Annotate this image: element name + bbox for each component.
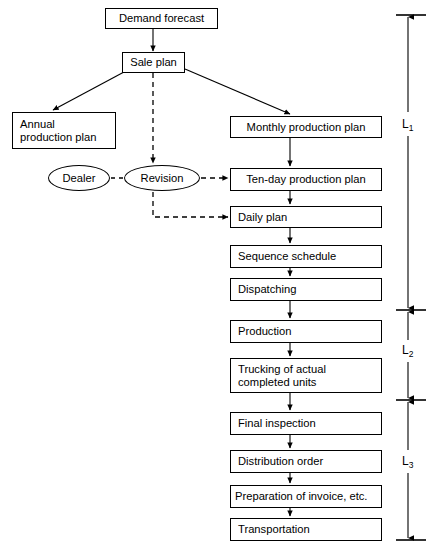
node-annual-production-plan[interactable]: Annual production plan [12,112,116,149]
node-production[interactable]: Production [230,320,382,343]
flowchart-diagram: Demand forecast Sale plan Annual product… [0,0,440,549]
node-preparation-of-invoice-label: Preparation of invoice, etc. [235,490,367,503]
node-daily-plan[interactable]: Daily plan [230,206,382,228]
dimension-label-l3: L3 [400,453,415,471]
node-trucking-of-actual-completed-units[interactable]: Trucking of actual completed units [230,358,382,393]
node-monthly-production-plan-label: Monthly production plan [247,121,366,134]
node-demand-forecast[interactable]: Demand forecast [105,8,218,29]
node-distribution-order[interactable]: Distribution order [230,450,382,473]
node-dispatching-label: Dispatching [238,283,296,296]
node-demand-forecast-label: Demand forecast [119,12,204,25]
node-monthly-production-plan[interactable]: Monthly production plan [230,116,382,138]
node-revision-label: Revision [141,172,184,185]
node-dispatching[interactable]: Dispatching [230,278,382,301]
node-annual-production-plan-label: Annual production plan [20,118,97,144]
node-sequence-schedule-label: Sequence schedule [238,250,336,263]
node-transportation[interactable]: Transportation [230,518,382,541]
node-revision[interactable]: Revision [124,165,200,191]
dimension-label-l1: L1 [400,116,415,134]
dimension-label-l3-subscript: 3 [409,460,414,470]
node-sale-plan-label: Sale plan [130,56,177,69]
node-production-label: Production [238,325,292,338]
node-daily-plan-label: Daily plan [238,211,287,224]
dimension-label-l3-letter: L [402,454,409,468]
node-ten-day-production-plan-label: Ten-day production plan [246,173,365,186]
dimension-label-l2-subscript: 2 [409,349,414,359]
dimension-label-l2: L2 [400,342,415,360]
node-ten-day-production-plan[interactable]: Ten-day production plan [230,168,382,191]
dimension-label-l2-letter: L [402,343,409,357]
node-preparation-of-invoice[interactable]: Preparation of invoice, etc. [230,485,382,508]
node-dealer[interactable]: Dealer [48,165,110,191]
node-trucking-of-actual-completed-units-label: Trucking of actual completed units [238,363,326,389]
dimension-label-l1-subscript: 1 [409,123,414,133]
node-final-inspection[interactable]: Final inspection [230,412,382,435]
dimension-label-l1-letter: L [402,117,409,131]
node-sale-plan[interactable]: Sale plan [122,52,185,73]
node-dealer-label: Dealer [63,172,96,185]
node-transportation-label: Transportation [238,523,310,536]
edge-revision-to-daily-plan [153,192,228,217]
edge-sale-plan-to-annual-plan [53,72,124,110]
node-sequence-schedule[interactable]: Sequence schedule [230,245,382,268]
node-final-inspection-label: Final inspection [238,417,316,430]
node-distribution-order-label: Distribution order [238,455,323,468]
edge-sale-plan-to-monthly-plan [185,69,290,114]
